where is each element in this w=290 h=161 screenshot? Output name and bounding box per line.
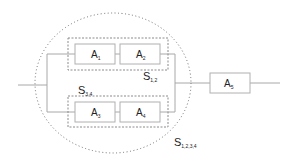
subsystem-s34-label: S3,4 (78, 84, 93, 97)
subsystem-s12-label: S1,2 (143, 70, 158, 83)
subsystem-s1234-label: S1,2,3,4 (174, 136, 197, 149)
reliability-block-diagram: A1 A2 A3 A4 A5 S1,2 S3,4 S1,2,3,4 (0, 0, 290, 161)
block-a5: A5 (210, 73, 250, 93)
block-a1: A1 (75, 44, 115, 64)
block-a2: A2 (120, 44, 160, 64)
block-a4: A4 (120, 102, 160, 122)
block-a3: A3 (75, 102, 115, 122)
subsystem-s1234-boundary (35, 13, 191, 153)
